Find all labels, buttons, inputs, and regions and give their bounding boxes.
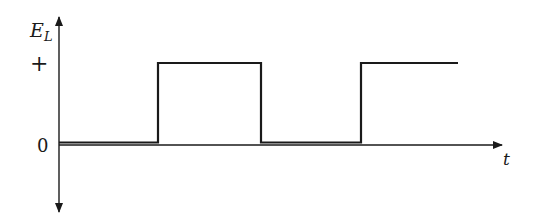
square-waveform: [59, 63, 458, 143]
x-axis-label: t: [503, 149, 510, 169]
square-wave-diagram: EL + 0 t: [0, 0, 536, 223]
y-axis-label: EL: [29, 19, 53, 44]
level-high-label: +: [30, 51, 48, 76]
level-zero-label: 0: [37, 135, 48, 156]
